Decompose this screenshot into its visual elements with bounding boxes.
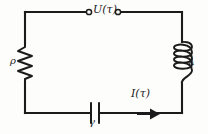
terminal-left-open-circle [86, 9, 91, 14]
inductor-label: λ [188, 56, 195, 67]
capacitor-label: γ [89, 117, 95, 127]
current-label: I(τ) [131, 88, 150, 99]
resistor-label: ρ [10, 56, 16, 66]
circuit-schematic-svg [0, 0, 208, 134]
current-arrow-icon [137, 109, 160, 120]
circuit-diagram-figure: U(τ) I(τ) ρ λ γ [0, 0, 208, 134]
voltage-label: U(τ) [93, 4, 117, 15]
resistor-symbol [18, 44, 32, 82]
